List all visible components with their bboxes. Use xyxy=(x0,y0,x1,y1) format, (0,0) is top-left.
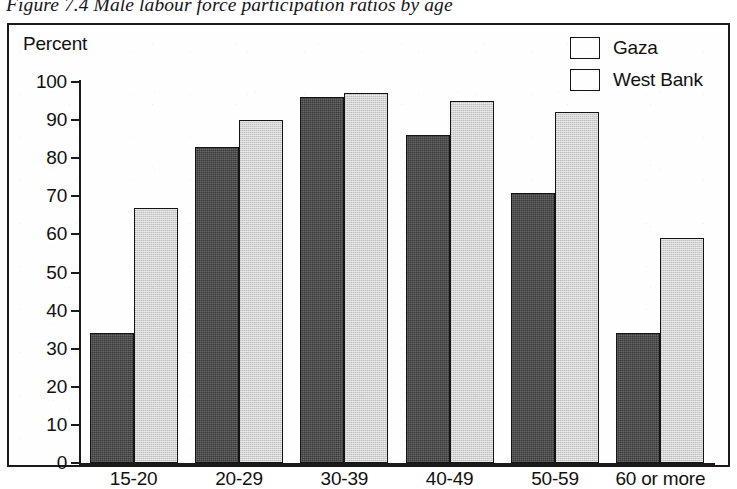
y-axis-tick xyxy=(71,272,80,274)
y-axis-tick xyxy=(71,195,80,197)
y-axis-tick-label: 50 xyxy=(46,262,67,284)
y-axis-tick-label: 20 xyxy=(46,376,67,398)
bar-gaza-15-20 xyxy=(90,333,134,463)
bar-west-bank-30-39 xyxy=(344,93,388,463)
y-axis-tick-label: 90 xyxy=(46,109,67,131)
y-axis-tick xyxy=(71,386,80,388)
bar-group xyxy=(81,82,186,463)
x-axis-tick-label: 20-29 xyxy=(215,468,263,489)
y-axis-tick xyxy=(71,462,80,464)
x-axis-tick-label: 15-20 xyxy=(110,468,158,489)
legend-item-gaza: Gaza xyxy=(570,33,730,63)
x-axis-tick-label: 30-39 xyxy=(321,468,369,489)
bar-group xyxy=(186,82,291,463)
y-axis-tick-label: 100 xyxy=(36,71,67,93)
bar-west-bank-40-49 xyxy=(450,101,494,463)
y-axis-tick xyxy=(71,157,80,159)
bar-west-bank-50-59 xyxy=(555,112,599,463)
y-axis-tick xyxy=(71,233,80,235)
x-axis-tick-label: 40-49 xyxy=(426,468,474,489)
y-axis-tick-label: 30 xyxy=(46,338,67,360)
bar-group xyxy=(502,82,607,463)
bar-gaza-30-39 xyxy=(300,97,344,463)
x-axis-tick-label: 60 or more xyxy=(615,468,705,489)
bar-gaza-50-59 xyxy=(511,193,555,464)
chart-frame: Percent GazaWest Bank 100908070605040302… xyxy=(7,23,730,467)
y-axis-tick-label: 60 xyxy=(46,223,67,245)
bar-group xyxy=(397,82,502,463)
y-axis-tick xyxy=(71,348,80,350)
bar-group xyxy=(608,82,713,463)
y-axis-tick-label: 80 xyxy=(46,147,67,169)
x-axis-tick-label: 50-59 xyxy=(531,468,579,489)
y-axis-tick-label: 40 xyxy=(46,300,67,322)
y-axis-tick xyxy=(71,424,80,426)
y-axis-tick xyxy=(71,119,80,121)
bar-west-bank-60-or-more xyxy=(660,238,704,463)
y-axis-tick xyxy=(71,310,80,312)
bar-gaza-60-or-more xyxy=(616,333,660,463)
y-axis-tick xyxy=(71,81,80,83)
legend-swatch-gaza xyxy=(570,37,600,59)
figure-caption: Figure 7.4 Male labour force participati… xyxy=(6,0,726,18)
bar-gaza-40-49 xyxy=(406,135,450,463)
x-axis-labels: 15-2020-2930-3940-4950-5960 or more xyxy=(81,468,713,489)
y-axis-labels: 1009080706050403020100 xyxy=(9,25,67,469)
bar-west-bank-20-29 xyxy=(239,120,283,463)
x-axis-line xyxy=(79,463,715,465)
legend-label: Gaza xyxy=(613,37,658,59)
y-axis-tick-label: 10 xyxy=(46,414,67,436)
y-axis-tick-label: 70 xyxy=(46,185,67,207)
y-axis-tick-label: 0 xyxy=(57,452,67,474)
bar-west-bank-15-20 xyxy=(134,208,178,463)
bar-group xyxy=(292,82,397,463)
bar-gaza-20-29 xyxy=(195,147,239,463)
plot-area xyxy=(81,82,713,463)
